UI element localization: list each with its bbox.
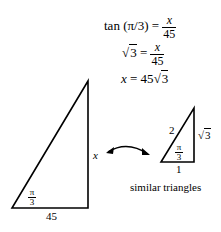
- small-base-label: 1: [176, 164, 182, 175]
- large-height-label: x: [93, 150, 98, 161]
- small-angle-label: π 3: [175, 143, 183, 163]
- large-angle-label: π 3: [28, 188, 36, 208]
- double-arrow-icon: [106, 146, 150, 155]
- small-height-label: √3: [198, 130, 211, 141]
- large-triangle: [12, 81, 88, 208]
- large-base-label: 45: [46, 211, 57, 222]
- caption: similar triangles: [130, 182, 201, 193]
- small-hyp-label: 2: [169, 125, 175, 136]
